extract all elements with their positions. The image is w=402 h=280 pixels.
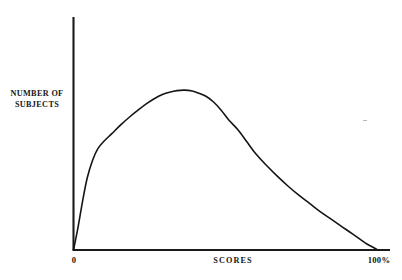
data-curve-group [74, 90, 379, 250]
y-axis-label-line-1: NUMBER OF [4, 89, 70, 100]
axes-group [73, 17, 390, 250]
x-axis-title: SCORES [196, 256, 270, 265]
x-tick-label-min: 0 [66, 255, 82, 265]
y-axis-label: NUMBER OF SUBJECTS [4, 89, 70, 110]
x-tick-label-max: 100% [362, 255, 396, 265]
y-axis-label-line-2: SUBJECTS [4, 100, 70, 111]
scan-speck [363, 120, 367, 121]
distribution-chart [0, 0, 402, 280]
distribution-curve [74, 90, 379, 250]
figure-canvas: NUMBER OF SUBJECTS SCORES 0 100% [0, 0, 402, 280]
